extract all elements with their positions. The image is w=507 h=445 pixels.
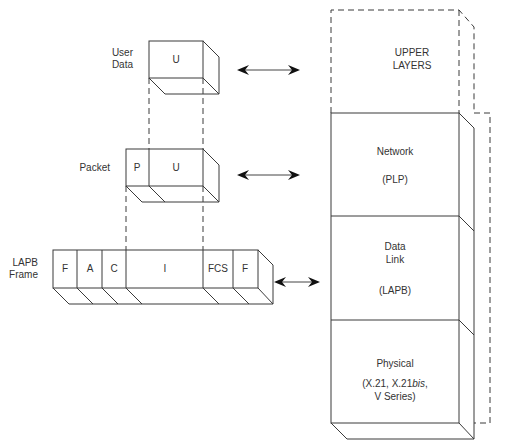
data-link-protocol: (LAPB) [379, 285, 411, 296]
network-layer-protocol: (PLP) [382, 174, 408, 185]
lapb-field-flag-end: F [242, 263, 248, 274]
lapb-field-address: A [87, 263, 94, 274]
upper-layers-line2: LAYERS [393, 60, 432, 71]
data-link-name-line2: Link [386, 254, 405, 265]
x25-layer-diagram: U User Data P U Packet F A C I FCS [0, 0, 507, 445]
user-data-box: U [149, 41, 219, 94]
lapb-label-line2: Frame [9, 269, 38, 280]
physical-layer-name: Physical [376, 358, 413, 369]
user-data-label-line2: Data [112, 59, 134, 70]
physical-layer: Physical (X.21, X.21bis, V Series) [362, 358, 428, 402]
lapb-frame-box: F A C I FCS F [53, 250, 273, 304]
user-data-field-u: U [172, 54, 179, 65]
physical-layer-protocol-line2: V Series) [374, 391, 415, 402]
upper-layers-box: UPPER LAYERS [331, 10, 474, 113]
data-link-name-line1: Data [384, 241, 406, 252]
network-layer-name: Network [377, 146, 415, 157]
packet-field-p: P [134, 162, 141, 173]
stack-dashed-outline [474, 113, 490, 423]
upper-layers-line1: UPPER [395, 47, 429, 58]
lapb-label-line1: LAPB [12, 257, 38, 268]
lapb-field-information: I [164, 263, 167, 274]
lapb-field-control: C [110, 263, 117, 274]
packet-field-u: U [172, 162, 179, 173]
packet-box: P U [126, 149, 219, 202]
network-layer: Network (PLP) [377, 146, 415, 185]
data-link-layer: Data Link (LAPB) [379, 241, 411, 296]
lapb-field-flag-start: F [62, 263, 68, 274]
packet-label: Packet [79, 162, 110, 173]
lapb-field-fcs: FCS [208, 263, 228, 274]
user-data-label-line1: User [112, 47, 134, 58]
physical-layer-protocol-line1: (X.21, X.21bis, [362, 378, 428, 389]
